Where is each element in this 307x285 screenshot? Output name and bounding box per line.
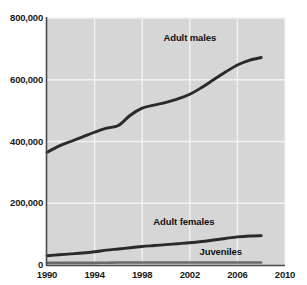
y-axis-tick-label: 800,000: [10, 12, 43, 23]
x-axis-tick-label: 1998: [122, 269, 162, 280]
y-axis-tick-label: 200,000: [10, 197, 43, 208]
chart-plot-svg: [0, 0, 307, 285]
y-axis-tick-label: 400,000: [10, 136, 43, 147]
x-axis-tick-label: 2002: [170, 269, 210, 280]
series-annotation-juveniles: Juveniles: [200, 246, 242, 257]
x-axis-tick-label: 2010: [265, 269, 305, 280]
x-axis-tick-label: 1994: [75, 269, 115, 280]
x-axis-tick-label: 2006: [217, 269, 257, 280]
chart-container: 0200,000400,000600,000800,00019901994199…: [0, 0, 307, 285]
series-annotation-adult-males: Adult males: [163, 32, 216, 43]
series-annotation-adult-females: Adult females: [153, 216, 214, 227]
y-axis-tick-label: 600,000: [10, 74, 43, 85]
x-axis-tick-label: 1990: [27, 269, 67, 280]
